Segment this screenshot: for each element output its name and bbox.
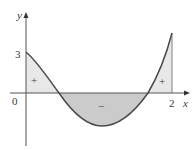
y-axis-arrow-icon bbox=[24, 12, 29, 18]
region-left-sign: + bbox=[31, 74, 37, 86]
x-axis-arrow-icon bbox=[184, 91, 190, 96]
y-tick-3-label: 3 bbox=[15, 48, 21, 60]
x-tick-2-label: 2 bbox=[169, 97, 175, 109]
region-middle-sign: − bbox=[98, 100, 104, 112]
x-axis-label: x bbox=[182, 97, 188, 109]
y-axis-label: y bbox=[16, 9, 22, 21]
region-right-sign: + bbox=[159, 75, 165, 87]
origin-label: 0 bbox=[12, 95, 18, 107]
signed-area-diagram: y x 0 3 2 + − + bbox=[0, 0, 193, 150]
